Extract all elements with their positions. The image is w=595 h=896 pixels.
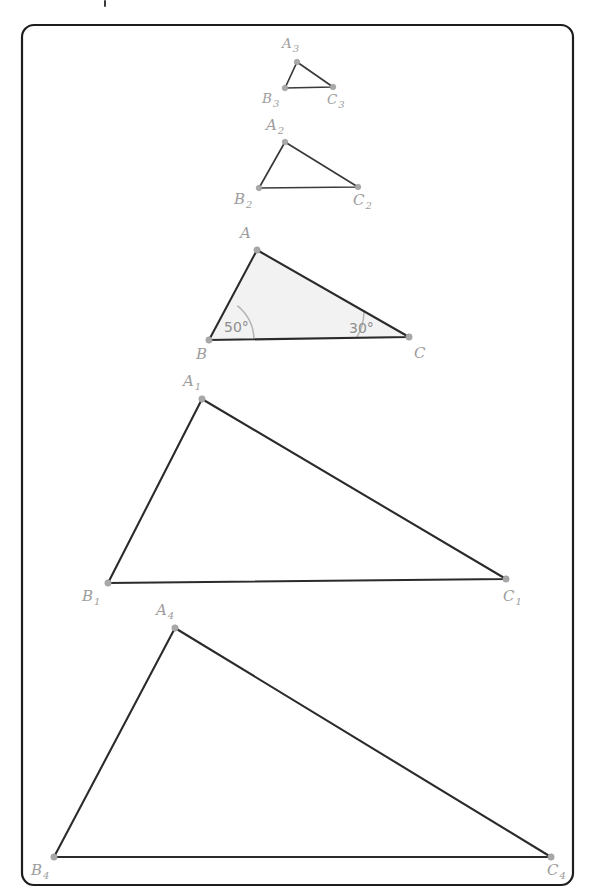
vertex-subscript-A2: 2 [277, 125, 284, 136]
vertex-dot-C1 [503, 576, 509, 582]
angle-label-c: 30° [349, 320, 374, 336]
vertex-label-A: A [238, 224, 251, 242]
vertex-label-C: C [414, 344, 426, 362]
vertex-subscript-A1: 1 [195, 381, 201, 392]
vertex-dot-B2 [256, 185, 262, 191]
vertex-subscript-C1: 1 [515, 596, 521, 607]
vertex-subscript-C3: 3 [338, 99, 344, 110]
vertex-dot-C4 [548, 854, 554, 860]
vertex-letter-B2: B [233, 190, 245, 208]
vertex-label-B: B [195, 345, 207, 363]
vertex-letter-B1: B [81, 587, 93, 605]
stray-tick-mark [104, 0, 106, 7]
vertex-letter-A2: A [264, 116, 277, 134]
vertex-letter-C3: C [327, 91, 338, 107]
vertex-dot-B4 [51, 854, 57, 860]
vertex-dot-B1 [105, 580, 111, 586]
vertex-subscript-B4: 4 [42, 870, 49, 881]
vertex-letter-B4: B [30, 861, 42, 879]
vertex-dot-B3 [282, 85, 288, 91]
vertex-letter-A4: A [154, 601, 167, 619]
geometry-diagram-page: A3B3C3A2B2C2ABC50°30°A1B1C1A4B4C4 [0, 0, 595, 896]
vertex-subscript-A3: 3 [293, 43, 299, 54]
vertex-letter-A1: A [181, 372, 194, 390]
vertex-letter-B: B [195, 345, 207, 363]
vertex-subscript-A4: 4 [167, 610, 174, 621]
vertex-subscript-C4: 4 [558, 870, 565, 881]
vertex-subscript-B3: 3 [273, 98, 279, 109]
vertex-dot-C [406, 334, 412, 340]
vertex-letter-C2: C [353, 191, 365, 209]
vertex-letter-C: C [414, 344, 426, 362]
angle-label-b: 50° [224, 319, 249, 335]
vertex-letter-C4: C [547, 861, 559, 879]
vertex-dot-A [254, 247, 260, 253]
vertex-subscript-B1: 1 [94, 596, 100, 607]
vertex-dot-A2 [282, 139, 288, 145]
vertex-dot-B [206, 337, 212, 343]
vertex-letter-A3: A [280, 35, 292, 51]
vertex-letter-A: A [238, 224, 251, 242]
vertex-dot-A3 [294, 59, 300, 65]
vertex-subscript-C2: 2 [364, 200, 371, 211]
vertex-dot-C2 [355, 184, 361, 190]
vertex-subscript-B2: 2 [245, 199, 252, 210]
vertex-dot-C3 [330, 84, 336, 90]
vertex-dot-A4 [172, 625, 178, 631]
vertex-letter-B3: B [261, 90, 272, 106]
vertex-letter-C1: C [503, 587, 515, 605]
similar-triangles-figure: A3B3C3A2B2C2ABC50°30°A1B1C1A4B4C4 [0, 0, 595, 896]
vertex-dot-A1 [199, 396, 205, 402]
